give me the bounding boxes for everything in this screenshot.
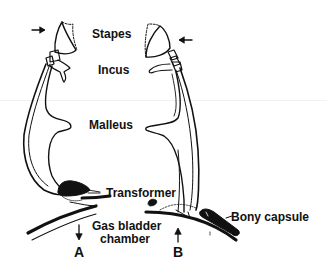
arrow-up-icon: [175, 228, 181, 242]
weberian-ossicles-diagram: Stapes Incus Malleus Transformer Gas bla…: [0, 0, 327, 270]
arrow-down-icon: [76, 225, 82, 240]
label-panel-a: A: [74, 246, 84, 259]
label-malleus: Malleus: [89, 119, 133, 132]
label-incus: Incus: [98, 64, 129, 77]
arrow-left-icon: [179, 37, 192, 43]
diagram-drawing: [0, 0, 327, 270]
label-gas-bladder: Gas bladder chamber: [92, 220, 158, 246]
label-gas-bladder-line2: chamber: [92, 233, 158, 246]
label-panel-b: B: [173, 246, 183, 259]
label-bony-capsule: Bony capsule: [231, 211, 309, 224]
label-transformer: Transformer: [106, 187, 176, 200]
arrow-right-icon: [32, 27, 45, 33]
label-stapes: Stapes: [92, 28, 131, 41]
panel-b-ossicles: [145, 24, 239, 240]
